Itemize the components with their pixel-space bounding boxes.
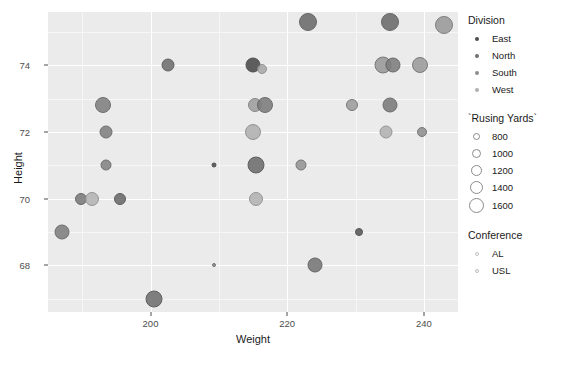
legend-item-label: 1200	[492, 165, 513, 176]
legend-division-title: Division	[468, 14, 564, 26]
data-point	[299, 13, 317, 31]
legend-size-title: `Rusing Yards`	[468, 112, 564, 124]
gridline-horizontal-minor	[48, 232, 458, 233]
legend-item-label: South	[492, 67, 517, 78]
y-axis-tick-mark	[44, 265, 48, 266]
legend-key-icon	[468, 245, 485, 262]
gridline-horizontal-minor	[48, 32, 458, 33]
data-point	[54, 225, 69, 240]
legend-item-division[interactable]: North	[468, 47, 564, 64]
data-point	[346, 99, 358, 111]
data-point	[101, 160, 112, 171]
x-axis-tick-mark	[423, 312, 424, 316]
data-point	[381, 13, 399, 31]
legend-division: Division EastNorthSouthWest	[468, 14, 564, 98]
legend-key-icon	[468, 128, 485, 145]
legend-item-conference[interactable]: USL	[468, 262, 564, 279]
gridline-vertical	[287, 12, 288, 312]
legend-key-icon	[468, 179, 485, 196]
x-axis-tick-label: 200	[143, 318, 159, 329]
data-point	[412, 57, 428, 73]
data-point	[355, 228, 363, 236]
legend-item-label: USL	[492, 265, 510, 276]
y-axis-title: Height	[12, 128, 24, 208]
gridline-vertical-minor	[219, 12, 220, 312]
x-axis-tick-label: 220	[279, 318, 295, 329]
legend-item-division[interactable]: South	[468, 64, 564, 81]
legend-item-label: 1600	[492, 200, 513, 211]
data-point	[212, 163, 217, 168]
legend-key-icon	[468, 145, 485, 162]
data-point	[257, 97, 273, 113]
legend-item-division[interactable]: West	[468, 81, 564, 98]
y-axis-tick-label: 74	[19, 60, 30, 71]
gridline-horizontal	[48, 265, 458, 266]
data-point	[248, 157, 265, 174]
data-point	[380, 126, 393, 139]
y-axis-tick-mark	[44, 132, 48, 133]
data-point	[114, 193, 126, 205]
data-point	[245, 124, 261, 140]
legend-item-label: North	[492, 50, 515, 61]
legend-conference-title: Conference	[468, 229, 564, 241]
x-axis-title: Weight	[48, 333, 458, 345]
legend-item-label: 800	[492, 131, 508, 142]
x-axis-tick-label: 240	[416, 318, 432, 329]
data-point	[145, 290, 162, 307]
x-axis-tick-mark	[287, 312, 288, 316]
data-point	[417, 127, 427, 137]
gridline-vertical-minor	[356, 12, 357, 312]
legend-key-icon	[468, 30, 485, 47]
data-point	[249, 192, 263, 206]
plot-panel	[48, 12, 458, 312]
data-point	[386, 58, 401, 73]
legend-key-icon	[468, 64, 485, 81]
legend-conference: Conference ALUSL	[468, 229, 564, 279]
legend-size: `Rusing Yards` 8001000120014001600	[468, 112, 564, 215]
data-point	[382, 98, 397, 113]
legend-item-size[interactable]: 1600	[468, 196, 564, 215]
gridline-vertical	[424, 12, 425, 312]
legend-container: Division EastNorthSouthWest `Rusing Yard…	[468, 14, 564, 287]
legend-key-icon	[468, 162, 485, 179]
chart-root: 68707274200220240 Weight Height Division…	[0, 0, 564, 368]
legend-item-conference[interactable]: AL	[468, 245, 564, 262]
legend-item-size[interactable]: 1400	[468, 179, 564, 196]
data-point	[85, 192, 99, 206]
legend-item-size[interactable]: 800	[468, 128, 564, 145]
legend-key-icon	[468, 262, 485, 279]
legend-item-size[interactable]: 1000	[468, 145, 564, 162]
data-point	[435, 16, 453, 34]
data-point	[95, 97, 111, 113]
x-axis-tick-mark	[150, 312, 151, 316]
data-point	[295, 160, 306, 171]
legend-item-label: AL	[492, 248, 504, 259]
legend-item-label: East	[492, 33, 511, 44]
legend-key-icon	[468, 47, 485, 64]
legend-key-icon	[468, 197, 485, 214]
gridline-vertical	[151, 12, 152, 312]
y-axis-tick-mark	[44, 65, 48, 66]
data-point	[161, 59, 174, 72]
data-point	[100, 126, 113, 139]
data-point	[307, 258, 322, 273]
y-axis-tick-label: 68	[19, 260, 30, 271]
legend-item-label: 1400	[492, 182, 513, 193]
data-point	[257, 64, 267, 74]
y-axis-tick-mark	[44, 198, 48, 199]
gridline-vertical-minor	[82, 12, 83, 312]
legend-item-label: West	[492, 84, 513, 95]
legend-key-icon	[468, 81, 485, 98]
data-point	[212, 263, 216, 267]
legend-item-division[interactable]: East	[468, 30, 564, 47]
legend-item-label: 1000	[492, 148, 513, 159]
legend-item-size[interactable]: 1200	[468, 162, 564, 179]
gridline-horizontal-minor	[48, 299, 458, 300]
